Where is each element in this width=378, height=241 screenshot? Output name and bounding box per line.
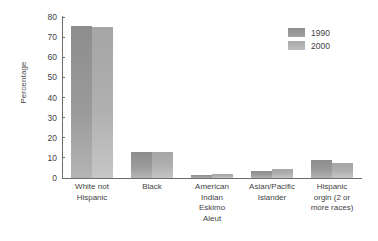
legend-swatch bbox=[288, 28, 305, 37]
bar-1990 bbox=[191, 175, 212, 178]
legend-swatch bbox=[288, 41, 305, 50]
x-axis-category-label: Black bbox=[122, 182, 182, 224]
bar-1990 bbox=[71, 26, 92, 178]
legend-item: 1990 bbox=[288, 27, 330, 38]
y-axis-tick-label: 50 bbox=[48, 72, 62, 82]
y-axis-tick-label: 60 bbox=[48, 52, 62, 62]
legend-label: 2000 bbox=[311, 41, 330, 51]
x-axis-category-label: White notHispanic bbox=[62, 182, 122, 224]
y-axis-tick-label: 20 bbox=[48, 133, 62, 143]
bar-2000 bbox=[272, 169, 293, 178]
bar-group bbox=[122, 17, 182, 178]
y-axis-tick-label: 70 bbox=[48, 32, 62, 42]
bar-group bbox=[62, 17, 122, 178]
bar-group bbox=[182, 17, 242, 178]
y-axis-tick-label: 0 bbox=[52, 173, 62, 183]
x-axis-category-label: Hispanicorgin (2 ormore races) bbox=[302, 182, 362, 224]
legend-label: 1990 bbox=[311, 28, 330, 38]
bar-1990 bbox=[131, 152, 152, 178]
y-axis-tick-label: 40 bbox=[48, 93, 62, 103]
x-axis-category-label: Asian/PacificIslander bbox=[242, 182, 302, 224]
bar-2000 bbox=[152, 152, 173, 178]
bar-chart: Percentage 01020304050607080 White notHi… bbox=[0, 0, 378, 241]
x-axis-category-labels: White notHispanicBlackAmericanIndianEski… bbox=[62, 182, 362, 224]
legend: 19902000 bbox=[288, 27, 330, 53]
bar-2000 bbox=[332, 163, 353, 178]
bar-2000 bbox=[92, 27, 113, 178]
bar-1990 bbox=[251, 171, 272, 178]
y-axis-tick-label: 30 bbox=[48, 113, 62, 123]
legend-item: 2000 bbox=[288, 40, 330, 51]
x-axis-line bbox=[62, 178, 362, 179]
y-axis-tick-label: 80 bbox=[48, 12, 62, 22]
x-axis-category-label: AmericanIndianEskimoAleut bbox=[182, 182, 242, 224]
bar-2000 bbox=[212, 174, 233, 178]
y-axis-tick-label: 10 bbox=[48, 153, 62, 163]
bar-1990 bbox=[311, 160, 332, 178]
y-axis-title: Percentage bbox=[19, 33, 28, 133]
